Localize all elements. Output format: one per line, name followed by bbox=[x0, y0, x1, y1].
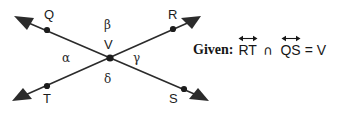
angle-label-beta: β bbox=[104, 19, 111, 31]
point-marker-V bbox=[106, 54, 113, 61]
point-label-T: T bbox=[43, 92, 51, 105]
line-notation-QS: QS bbox=[280, 43, 300, 57]
arrowhead-lower-right bbox=[189, 88, 209, 101]
point-label-Q: Q bbox=[44, 8, 54, 21]
double-arrow-icon-RT bbox=[238, 34, 258, 42]
arrowhead-upper-right bbox=[181, 16, 201, 29]
angle-label-gamma: γ bbox=[133, 52, 140, 64]
point-label-R: R bbox=[168, 8, 177, 21]
point-marker-Q bbox=[44, 27, 50, 33]
point-label-S: S bbox=[169, 92, 178, 105]
point-marker-S bbox=[181, 86, 187, 92]
point-marker-R bbox=[170, 26, 176, 32]
angle-label-alpha: α bbox=[62, 52, 70, 64]
arrowhead-upper-left bbox=[14, 16, 34, 30]
double-arrow-icon-QS bbox=[281, 34, 301, 42]
given-result-label: V bbox=[317, 43, 326, 57]
arrowhead-lower-left bbox=[12, 88, 32, 101]
point-marker-T bbox=[44, 83, 50, 89]
line-notation-RT-text: RT bbox=[238, 42, 256, 58]
geometry-figure: Q R T S V α β γ δ Given: RT ∩ QS = V bbox=[0, 0, 344, 115]
point-label-V: V bbox=[104, 38, 113, 51]
intersection-symbol: ∩ bbox=[263, 44, 273, 57]
given-prefix-label: Given: bbox=[193, 43, 233, 57]
line-notation-RT: RT bbox=[238, 43, 256, 57]
given-statement: Given: RT ∩ QS = V bbox=[193, 43, 326, 57]
equals-symbol: = bbox=[305, 43, 313, 57]
line-notation-QS-text: QS bbox=[280, 42, 300, 58]
angle-label-delta: δ bbox=[104, 73, 111, 85]
